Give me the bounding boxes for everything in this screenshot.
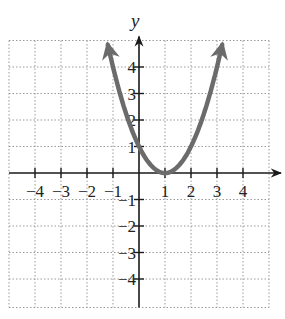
x-tick-label: 1 (161, 182, 170, 201)
y-tick-label: −4 (118, 270, 137, 289)
x-tick-label: 4 (239, 182, 248, 201)
coordinate-plane: −4−3−2−112344321−1−2−3−4 x y (0, 0, 285, 319)
y-tick-label: −3 (118, 244, 136, 263)
x-tick-label: −4 (26, 182, 45, 201)
y-tick-label: 3 (128, 85, 137, 104)
y-tick-label: −1 (118, 191, 136, 210)
x-tick-label: 3 (213, 182, 222, 201)
y-tick-label: 4 (128, 58, 137, 77)
axes (9, 37, 281, 308)
y-axis-label: y (129, 10, 140, 31)
x-tick-label: −2 (78, 182, 96, 201)
x-tick-label: −3 (52, 182, 70, 201)
y-tick-label: −2 (118, 217, 136, 236)
x-tick-label: 2 (187, 182, 196, 201)
